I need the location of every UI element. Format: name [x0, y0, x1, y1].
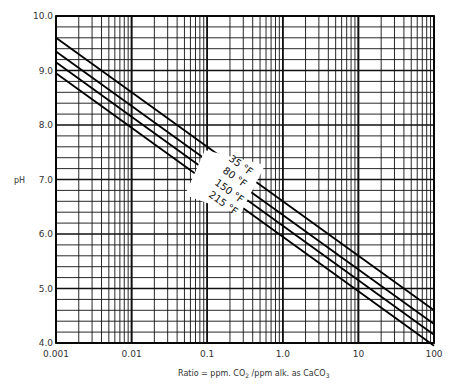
svg-text:7.0: 7.0 — [39, 175, 54, 185]
svg-text:8.0: 8.0 — [39, 120, 54, 130]
x-axis-label: Ratio = ppm. CO2 /ppm alk. as CaCO3 — [178, 369, 330, 379]
svg-text:0.001: 0.001 — [43, 349, 69, 359]
svg-text:0.1: 0.1 — [200, 349, 214, 359]
svg-text:10.0: 10.0 — [33, 11, 53, 21]
svg-text:9.0: 9.0 — [39, 66, 54, 76]
svg-text:100: 100 — [425, 349, 442, 359]
svg-text:0.01: 0.01 — [122, 349, 142, 359]
x-tick-labels: 0.0010.010.11.010100 — [43, 349, 443, 359]
y-tick-labels: 4.05.06.07.08.09.010.0 — [33, 11, 53, 348]
svg-text:1.0: 1.0 — [276, 349, 291, 359]
svg-text:5.0: 5.0 — [39, 284, 54, 294]
svg-text:6.0: 6.0 — [39, 229, 54, 239]
y-axis-label: pH — [14, 176, 25, 185]
svg-text:4.0: 4.0 — [39, 338, 54, 348]
svg-text:10: 10 — [353, 349, 365, 359]
ph-ratio-chart: 35 °F80 °F150 °F215 °F 0.0010.010.11.010… — [0, 0, 458, 390]
